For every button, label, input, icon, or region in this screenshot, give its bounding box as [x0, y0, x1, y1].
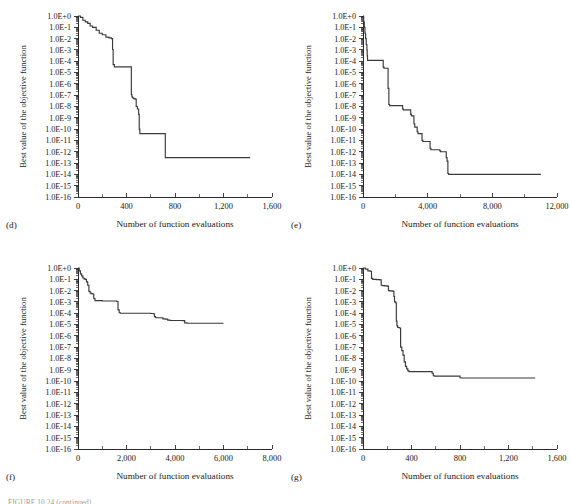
y-tick-label: 1.0E-1	[334, 275, 356, 284]
x-tick-label: 0	[361, 202, 365, 211]
x-tick-label: 400	[405, 454, 418, 463]
y-tick-label: 1.0E-6	[334, 332, 356, 341]
convergence-curve	[78, 268, 224, 323]
convergence-curve	[363, 268, 535, 378]
y-tick-label: 1.0E-10	[330, 125, 356, 134]
y-tick-label: 1.0E-9	[334, 114, 356, 123]
x-tick-label: 1,600	[548, 454, 567, 463]
x-tick-label: 800	[169, 202, 182, 211]
y-tick-label: 1.0E-13	[330, 411, 356, 420]
y-tick-label: 1.0E-14	[45, 422, 71, 431]
x-tick-label: 400	[120, 202, 133, 211]
y-tick-label: 1.0E-14	[330, 422, 356, 431]
y-tick-label: 1.0E-15	[45, 182, 71, 191]
y-tick-label: 1.0E-7	[49, 91, 71, 100]
y-tick-label: 1.0E-3	[49, 298, 71, 307]
y-tick-label: 1.0E-5	[334, 320, 356, 329]
y-axis-title: Best value of the objective function	[18, 45, 28, 168]
y-tick-label: 1.0E-2	[334, 287, 356, 296]
y-tick-label: 1.0E-13	[45, 159, 71, 168]
y-tick-label: 1.0E-7	[334, 343, 356, 352]
y-axis-title: Best value of the objective function	[303, 45, 313, 168]
y-tick-label: 1.0E-13	[45, 411, 71, 420]
y-tick-label: 1.0E-11	[330, 136, 356, 145]
y-tick-label: 1.0E-5	[49, 320, 71, 329]
y-tick-label: 1.0E-12	[330, 400, 356, 409]
y-tick-label: 1.0E-3	[334, 46, 356, 55]
x-tick-label: 2,000	[117, 454, 136, 463]
panel-label: (e)	[291, 220, 301, 230]
y-tick-label: 1.0E-14	[330, 170, 356, 179]
y-tick-label: 1.0E-16	[330, 445, 356, 454]
y-tick-label: 1.0E-11	[45, 136, 71, 145]
y-tick-label: 1.0E-4	[49, 309, 71, 318]
x-tick-label: 0	[361, 454, 365, 463]
y-tick-label: 1.0E+0	[47, 264, 71, 273]
y-tick-label: 1.0E-16	[45, 193, 71, 202]
y-tick-label: 1.0E-15	[330, 182, 356, 191]
y-tick-label: 1.0E-13	[330, 159, 356, 168]
y-tick-label: 1.0E-16	[330, 193, 356, 202]
y-tick-label: 1.0E-4	[334, 57, 356, 66]
x-axis-title: Number of function evaluations	[116, 471, 234, 481]
y-tick-label: 1.0E-4	[334, 309, 356, 318]
convergence-curve	[363, 16, 541, 174]
panel-label: (f)	[6, 472, 15, 482]
y-tick-label: 1.0E-16	[45, 445, 71, 454]
y-tick-label: 1.0E-6	[49, 80, 71, 89]
convergence-curve	[78, 16, 250, 158]
y-tick-label: 1.0E-3	[49, 46, 71, 55]
y-tick-label: 1.0E-2	[49, 287, 71, 296]
x-axis-title: Number of function evaluations	[401, 471, 519, 481]
y-tick-label: 1.0E-6	[49, 332, 71, 341]
y-tick-label: 1.0E-2	[49, 35, 71, 44]
y-tick-label: 1.0E-10	[45, 125, 71, 134]
x-tick-label: 4,000	[166, 454, 185, 463]
x-tick-label: 4,000	[418, 202, 437, 211]
y-tick-label: 1.0E-9	[49, 114, 71, 123]
y-tick-label: 1.0E-1	[49, 23, 71, 32]
y-tick-label: 1.0E-12	[330, 148, 356, 157]
y-tick-label: 1.0E-9	[334, 366, 356, 375]
chart-panel-e: 1.0E+01.0E-11.0E-21.0E-31.0E-41.0E-51.0E…	[285, 0, 570, 252]
y-tick-label: 1.0E-2	[334, 35, 356, 44]
x-tick-label: 1,200	[214, 202, 233, 211]
y-tick-label: 1.0E-14	[45, 170, 71, 179]
y-tick-label: 1.0E-12	[45, 148, 71, 157]
panel-label: (d)	[6, 220, 17, 230]
y-tick-label: 1.0E-8	[334, 354, 356, 363]
y-tick-label: 1.0E-6	[334, 80, 356, 89]
y-tick-label: 1.0E-8	[49, 354, 71, 363]
x-axis-title: Number of function evaluations	[116, 219, 234, 229]
x-tick-label: 1,600	[263, 202, 282, 211]
x-tick-label: 0	[76, 202, 80, 211]
panel-label: (g)	[291, 472, 302, 482]
y-tick-label: 1.0E-5	[334, 68, 356, 77]
y-tick-label: 1.0E-11	[45, 388, 71, 397]
y-tick-label: 1.0E-10	[45, 377, 71, 386]
figure-panel-grid: 1.0E+01.0E-11.0E-21.0E-31.0E-41.0E-51.0E…	[0, 0, 570, 504]
y-tick-label: 1.0E-3	[334, 298, 356, 307]
y-tick-label: 1.0E-10	[330, 377, 356, 386]
y-tick-label: 1.0E+0	[332, 264, 356, 273]
y-tick-label: 1.0E-4	[49, 57, 71, 66]
x-tick-label: 8,000	[483, 202, 502, 211]
y-tick-label: 1.0E-9	[49, 366, 71, 375]
y-axis-title: Best value of the objective function	[303, 297, 313, 420]
y-tick-label: 1.0E-15	[330, 434, 356, 443]
y-tick-label: 1.0E-7	[334, 91, 356, 100]
x-tick-label: 12,000	[545, 202, 568, 211]
y-axis-title: Best value of the objective function	[18, 297, 28, 420]
y-tick-label: 1.0E-11	[330, 388, 356, 397]
x-tick-label: 0	[76, 454, 80, 463]
y-tick-label: 1.0E-5	[49, 68, 71, 77]
y-tick-label: 1.0E-7	[49, 343, 71, 352]
chart-panel-f: 1.0E+01.0E-11.0E-21.0E-31.0E-41.0E-51.0E…	[0, 252, 285, 504]
x-tick-label: 6,000	[214, 454, 233, 463]
y-tick-label: 1.0E-1	[49, 275, 71, 284]
y-tick-label: 1.0E-1	[334, 23, 356, 32]
chart-panel-g: 1.0E+01.0E-11.0E-21.0E-31.0E-41.0E-51.0E…	[285, 252, 570, 504]
x-tick-label: 800	[454, 454, 467, 463]
y-tick-label: 1.0E-8	[334, 102, 356, 111]
x-tick-label: 8,000	[263, 454, 282, 463]
